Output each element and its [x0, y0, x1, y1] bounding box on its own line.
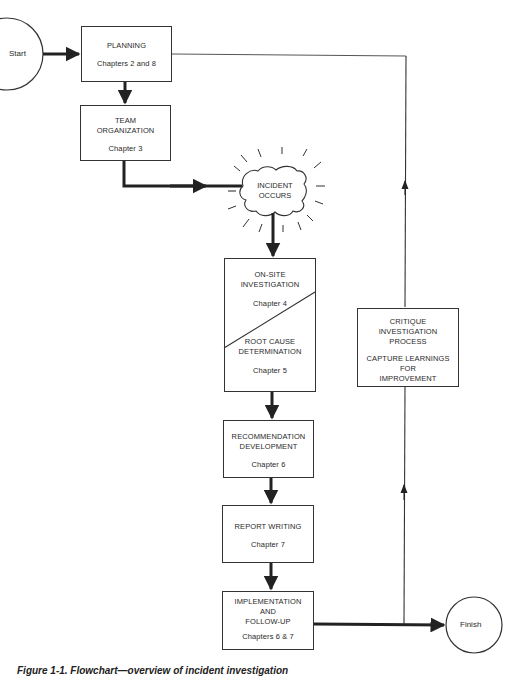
- implementation-title-line3: FOLLOW-UP: [223, 617, 313, 627]
- edge-team-incident: [124, 161, 242, 186]
- finish-label: Finish: [460, 620, 481, 629]
- recommendation-title-line2: DEVELOPMENT: [224, 442, 313, 452]
- onsite-chapter: Chapter 4: [225, 299, 315, 309]
- report-writing-box: REPORT WRITING Chapter 7: [222, 505, 314, 563]
- onsite-title-line1: ON-SITE: [225, 270, 315, 280]
- implementation-title-line2: AND: [223, 607, 313, 617]
- report-chapter: Chapter 7: [223, 540, 313, 550]
- recommendation-chapter: Chapter 6: [224, 460, 313, 470]
- start-label: Start: [9, 49, 26, 58]
- rootcause-title-line2: DETERMINATION: [225, 347, 315, 357]
- planning-box: PLANNING Chapters 2 and 8: [81, 26, 172, 82]
- edge-implementation-finish: [314, 624, 444, 625]
- implementation-title-line1: IMPLEMENTATION: [223, 597, 313, 607]
- report-title: REPORT WRITING: [223, 522, 313, 532]
- critique-box: CRITIQUE INVESTIGATION PROCESS CAPTURE L…: [357, 308, 459, 387]
- incident-line2: OCCURS: [246, 191, 304, 201]
- recommendation-box: RECOMMENDATION DEVELOPMENT Chapter 6: [223, 420, 314, 478]
- team-title-line2: ORGANIZATION: [81, 126, 170, 136]
- incident-occurs-label: INCIDENT OCCURS: [246, 181, 304, 201]
- incident-line1: INCIDENT: [246, 181, 304, 191]
- team-title-line1: TEAM: [81, 116, 170, 126]
- critique-line4: CAPTURE LEARNINGS: [358, 354, 458, 364]
- recommendation-title-line1: RECOMMENDATION: [224, 432, 313, 442]
- planning-chapter: Chapters 2 and 8: [82, 59, 171, 69]
- onsite-title-line2: INVESTIGATION: [225, 280, 315, 290]
- critique-line1: CRITIQUE: [358, 317, 458, 327]
- planning-title: PLANNING: [82, 41, 171, 51]
- edge-implementation-critique: [404, 387, 405, 624]
- rootcause-chapter: Chapter 5: [225, 366, 315, 376]
- implementation-chapter: Chapters 6 & 7: [223, 632, 313, 642]
- figure-caption: Figure 1-1. Flowchart—overview of incide…: [17, 665, 288, 676]
- implementation-box: IMPLEMENTATION AND FOLLOW-UP Chapters 6 …: [222, 591, 314, 650]
- critique-line5: FOR: [358, 364, 458, 374]
- flowchart: Start Finish PLANNING Chapters 2 and 8 T…: [0, 0, 520, 677]
- team-organization-box: TEAM ORGANIZATION Chapter 3: [80, 105, 171, 161]
- onsite-rootcause-box: ON-SITE INVESTIGATION Chapter 4 ROOT CAU…: [224, 258, 316, 392]
- critique-line6: IMPROVEMENT: [358, 374, 458, 384]
- team-chapter: Chapter 3: [81, 144, 170, 154]
- critique-line2: INVESTIGATION: [358, 327, 458, 337]
- critique-line3: PROCESS: [358, 337, 458, 347]
- rootcause-title-line1: ROOT CAUSE: [225, 337, 315, 347]
